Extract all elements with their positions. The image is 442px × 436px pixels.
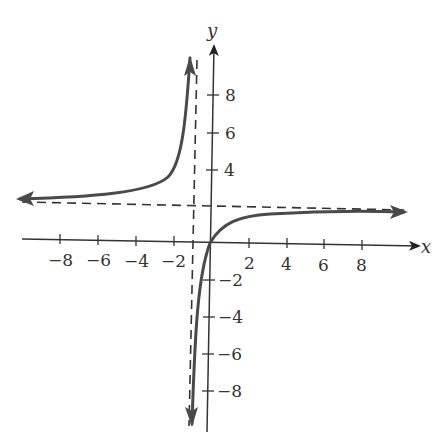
x-axis [22,239,419,246]
x-tick-label: −2 [161,251,186,271]
x-tick-label: 2 [244,253,255,273]
horizontal-asymptote [22,202,404,210]
x-tick-label: 6 [318,255,329,275]
y-axis-label: y [206,20,218,41]
y-tick-label: 8 [225,85,236,105]
y-tick-label: −8 [217,381,242,401]
x-tick-label: −4 [124,251,149,271]
x-tick-label: 8 [356,255,367,275]
x-tick-label: −6 [86,250,111,270]
x-tick-label: −8 [48,250,73,270]
rational-function-graph: x y −8 −6 −4 −2 2 4 6 8 8 6 4 −2 −4 [0,0,442,436]
function-curve [16,56,408,427]
y-tick-label: 6 [225,123,236,143]
y-tick-label: 4 [224,160,235,180]
y-tick-label: −4 [218,307,243,327]
y-tick-label: −2 [218,270,243,290]
x-tick-label: 4 [281,254,292,274]
x-axis-label: x [421,236,431,257]
curve-left-branch [20,58,190,199]
y-tick-label: −6 [217,344,242,364]
